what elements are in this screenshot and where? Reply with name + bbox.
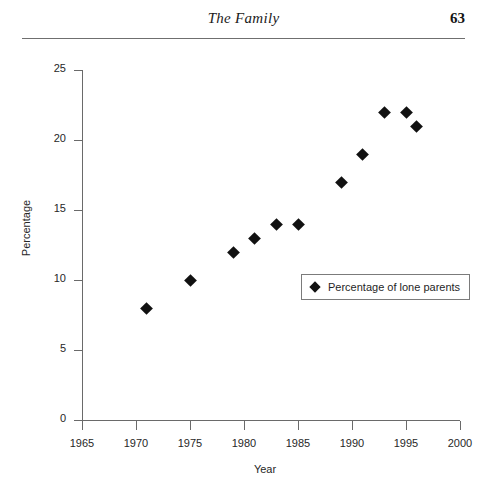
data-point — [400, 106, 413, 119]
scatter-chart: 0510152025 19651970197519801985199019952… — [0, 0, 492, 501]
data-point — [410, 120, 423, 133]
data-point — [378, 106, 391, 119]
x-axis-title: Year — [190, 463, 340, 475]
y-tick-label: 0 — [26, 412, 66, 424]
chart-legend: Percentage of lone parents — [301, 274, 470, 300]
y-tick-mark — [74, 210, 82, 211]
x-tick-label: 1985 — [273, 437, 323, 449]
y-tick-mark — [74, 70, 82, 71]
legend-diamond-icon — [309, 281, 320, 292]
y-axis-title: Percentage — [20, 188, 32, 268]
x-tick-mark — [406, 421, 407, 430]
y-tick-label: 25 — [26, 62, 66, 74]
data-point — [140, 302, 153, 315]
x-tick-mark — [82, 421, 83, 430]
data-point — [292, 218, 305, 231]
y-tick-mark — [74, 280, 82, 281]
x-axis-line — [82, 420, 460, 421]
y-tick-mark — [74, 140, 82, 141]
x-tick-label: 1990 — [327, 437, 377, 449]
data-point — [184, 274, 197, 287]
legend-entry-label: Percentage of lone parents — [328, 281, 460, 293]
x-tick-label: 2000 — [435, 437, 485, 449]
y-tick-label: 20 — [26, 132, 66, 144]
y-tick-mark — [74, 420, 82, 421]
y-axis-line — [82, 70, 83, 421]
x-tick-label: 1970 — [111, 437, 161, 449]
x-tick-mark — [460, 421, 461, 430]
x-tick-label: 1995 — [381, 437, 431, 449]
x-tick-label: 1975 — [165, 437, 215, 449]
x-tick-mark — [190, 421, 191, 430]
y-tick-label: 10 — [26, 272, 66, 284]
x-tick-label: 1965 — [57, 437, 107, 449]
x-tick-mark — [352, 421, 353, 430]
y-tick-label: 5 — [26, 342, 66, 354]
x-tick-mark — [244, 421, 245, 430]
data-point — [335, 176, 348, 189]
data-point — [270, 218, 283, 231]
x-tick-mark — [136, 421, 137, 430]
y-tick-mark — [74, 350, 82, 351]
x-tick-mark — [298, 421, 299, 430]
book-page: The Family 63 0510152025 196519701975198… — [0, 0, 492, 501]
y-tick-label: 15 — [26, 202, 66, 214]
data-point — [248, 232, 261, 245]
x-tick-label: 1980 — [219, 437, 269, 449]
data-point — [227, 246, 240, 259]
data-point — [356, 148, 369, 161]
